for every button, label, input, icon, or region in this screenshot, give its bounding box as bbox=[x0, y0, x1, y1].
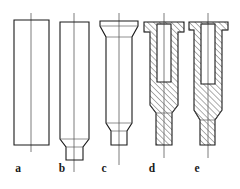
forming-sequence-diagram: abcde bbox=[0, 0, 240, 189]
caption-label-e: e bbox=[194, 162, 199, 174]
stage-a-cylindrical-billet bbox=[14, 13, 49, 152]
caption-label-a: a bbox=[15, 162, 21, 174]
caption-label-b: b bbox=[59, 162, 65, 174]
caption-label-d: d bbox=[149, 162, 156, 174]
figure-container: abcde bbox=[0, 0, 240, 189]
stage-a-body-fill bbox=[14, 20, 49, 145]
caption-label-c: c bbox=[101, 162, 106, 174]
